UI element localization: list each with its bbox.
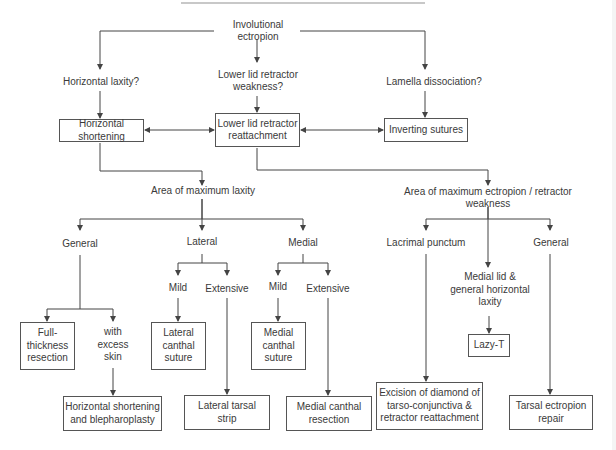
node-q-horiz: Horizontal laxity? — [62, 75, 140, 89]
node-gen-r: General — [528, 236, 574, 250]
node-med-canthal: Medial canthal suture — [251, 322, 306, 370]
edge-retr_reatt-to-area_ect — [257, 148, 488, 185]
edge-lateral-to-lat_ext — [202, 263, 227, 275]
node-excess-skin: with excess skin — [95, 325, 131, 365]
node-q-lam: Lamella dissociation? — [386, 75, 482, 89]
node-retr-reatt: Lower lid retractor reattachment — [215, 113, 300, 147]
edge-gen_l-to-full_thick — [47, 255, 80, 321]
node-medial-lid: Medial lid & general horizontal laxity — [445, 270, 535, 310]
node-q-retr: Lower lid retractor weakness? — [215, 67, 301, 95]
edge-lateral-to-lat_mild — [178, 254, 202, 275]
node-gen-l: General — [57, 237, 103, 251]
node-lat-mild: Mild — [166, 281, 190, 295]
node-medial: Medial — [281, 236, 325, 250]
node-lateral: Lateral — [180, 235, 224, 249]
node-area-lax: Area of maximum laxity — [150, 184, 256, 198]
edge-area_lax-to-gen_l — [80, 199, 202, 230]
node-diamond: Excision of diamond of tarso-conjunctiva… — [376, 382, 483, 430]
node-lat-canthal: Lateral canthal suture — [151, 322, 206, 370]
edge-area_lax-to-medial — [202, 219, 303, 230]
node-tarsal-ect: Tarsal ectropion repair — [509, 395, 593, 430]
node-med-mild: Mild — [266, 280, 290, 294]
node-horiz-short: Horizontal shortening — [59, 119, 144, 142]
edge-horiz_short-to-area_lax — [100, 143, 202, 185]
edge-area_ect-to-gen_r — [488, 219, 550, 230]
node-lat-ext: Extensive — [205, 282, 249, 296]
node-horiz-bleph: Horizontal shortening and blepharoplasty — [63, 396, 162, 431]
node-lacrimal: Lacrimal punctum — [384, 236, 468, 250]
node-med-resect: Medial canthal resection — [286, 396, 372, 431]
node-root: Involutional ectropion — [215, 24, 301, 38]
edge-root-to-q_lam — [300, 31, 425, 69]
node-lat-tarsal: Lateral tarsal strip — [184, 395, 270, 430]
edge-medial-to-med_mild — [278, 254, 303, 275]
flowchart-connectors — [0, 0, 616, 450]
edge-gen_l-to-excess_skin — [80, 309, 113, 321]
node-inv-sut: Inverting sutures — [384, 118, 468, 142]
node-lazy-t: Lazy-T — [468, 334, 510, 357]
node-full-thick: Full- thickness resection — [20, 322, 75, 370]
node-area-ect: Area of maximum ectropion / retractor we… — [388, 191, 588, 205]
edge-root-to-q_horiz — [100, 31, 214, 69]
edge-medial-to-med_ext — [303, 263, 328, 275]
node-med-ext: Extensive — [306, 282, 350, 296]
